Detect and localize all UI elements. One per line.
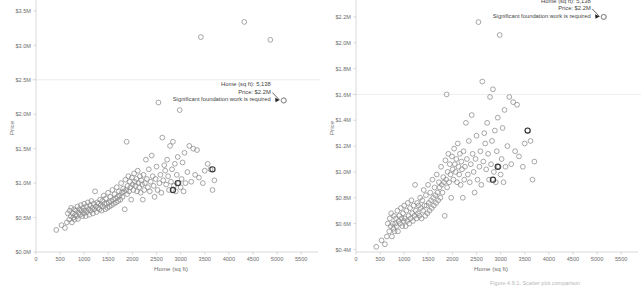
- data-point[interactable]: [162, 163, 167, 168]
- data-point[interactable]: [468, 162, 473, 167]
- data-point[interactable]: [430, 177, 435, 182]
- data-point[interactable]: [443, 158, 448, 163]
- data-point[interactable]: [151, 183, 156, 188]
- data-point[interactable]: [174, 172, 179, 177]
- data-point[interactable]: [503, 164, 508, 169]
- data-point[interactable]: [140, 197, 145, 202]
- scatter-plot-right-svg[interactable]: $0.4M$0.6M$0.8M$1.0M$1.2M$1.4M$1.6M$1.8M…: [320, 0, 641, 292]
- data-point[interactable]: [156, 100, 161, 105]
- data-point[interactable]: [507, 95, 512, 100]
- data-point[interactable]: [485, 120, 490, 125]
- data-point[interactable]: [491, 170, 496, 175]
- data-point[interactable]: [189, 179, 194, 184]
- scatter-panel-right[interactable]: $0.4M$0.6M$0.8M$1.0M$1.2M$1.4M$1.6M$1.8M…: [320, 0, 641, 292]
- data-point[interactable]: [448, 172, 453, 177]
- data-point[interactable]: [500, 126, 505, 131]
- data-point[interactable]: [158, 172, 163, 177]
- data-point[interactable]: [488, 95, 493, 100]
- data-point[interactable]: [532, 159, 537, 164]
- data-point[interactable]: [489, 162, 494, 167]
- data-point[interactable]: [459, 159, 464, 164]
- data-point[interactable]: [439, 164, 444, 169]
- annotated-data-point[interactable]: [281, 98, 286, 103]
- data-point[interactable]: [401, 211, 406, 216]
- data-point[interactable]: [159, 190, 164, 195]
- data-point[interactable]: [185, 170, 190, 175]
- data-point[interactable]: [374, 244, 379, 249]
- data-point[interactable]: [205, 161, 210, 166]
- data-point[interactable]: [476, 20, 481, 25]
- data-point[interactable]: [494, 149, 499, 154]
- data-point[interactable]: [462, 177, 467, 182]
- data-point[interactable]: [396, 229, 401, 234]
- data-point[interactable]: [460, 195, 465, 200]
- data-point[interactable]: [175, 155, 180, 160]
- data-point[interactable]: [198, 35, 203, 40]
- data-point[interactable]: [497, 33, 502, 38]
- data-point[interactable]: [129, 197, 134, 202]
- data-point[interactable]: [490, 139, 495, 144]
- annotated-data-point[interactable]: [601, 14, 606, 19]
- data-point[interactable]: [520, 164, 525, 169]
- data-point[interactable]: [450, 154, 455, 159]
- data-point[interactable]: [424, 193, 429, 198]
- data-point[interactable]: [197, 175, 202, 180]
- data-point[interactable]: [395, 208, 400, 213]
- data-point[interactable]: [164, 182, 169, 187]
- data-point[interactable]: [513, 149, 518, 154]
- data-point[interactable]: [464, 120, 469, 125]
- data-point[interactable]: [153, 177, 158, 182]
- data-point[interactable]: [463, 164, 468, 169]
- data-point[interactable]: [483, 141, 488, 146]
- data-point[interactable]: [480, 79, 485, 84]
- data-point[interactable]: [202, 168, 207, 173]
- data-point[interactable]: [449, 195, 454, 200]
- scatter-panel-left[interactable]: $0.0M$0.5M$1.0M$1.5M$2.0M$2.5M$3.0M$3.5M…: [0, 0, 320, 292]
- data-point[interactable]: [421, 188, 426, 193]
- data-point[interactable]: [409, 198, 414, 203]
- data-point[interactable]: [170, 167, 175, 172]
- data-point[interactable]: [470, 151, 475, 156]
- data-point[interactable]: [475, 177, 480, 182]
- data-point[interactable]: [498, 172, 503, 177]
- data-point[interactable]: [70, 220, 75, 225]
- data-point[interactable]: [442, 213, 447, 218]
- data-point[interactable]: [447, 180, 452, 185]
- data-point[interactable]: [160, 135, 165, 140]
- data-point[interactable]: [484, 167, 489, 172]
- data-point[interactable]: [522, 141, 527, 146]
- data-point[interactable]: [426, 182, 431, 187]
- data-point[interactable]: [390, 234, 395, 239]
- data-point[interactable]: [63, 225, 68, 230]
- data-point[interactable]: [441, 175, 446, 180]
- data-point[interactable]: [454, 157, 459, 162]
- data-point[interactable]: [460, 167, 465, 172]
- data-point[interactable]: [505, 144, 510, 149]
- data-point[interactable]: [495, 115, 500, 120]
- data-point[interactable]: [447, 162, 452, 167]
- data-point[interactable]: [154, 164, 159, 169]
- data-point[interactable]: [144, 157, 149, 162]
- data-point[interactable]: [93, 189, 98, 194]
- data-point[interactable]: [147, 189, 152, 194]
- data-point[interactable]: [469, 113, 474, 118]
- data-point[interactable]: [432, 185, 437, 190]
- data-point[interactable]: [515, 102, 520, 107]
- data-point[interactable]: [478, 149, 483, 154]
- data-point[interactable]: [509, 162, 514, 167]
- data-point[interactable]: [502, 108, 507, 113]
- data-point[interactable]: [179, 177, 184, 182]
- data-point-highlighted[interactable]: [525, 128, 530, 133]
- data-point[interactable]: [182, 150, 187, 155]
- data-point[interactable]: [122, 207, 127, 212]
- data-point[interactable]: [481, 159, 486, 164]
- data-point[interactable]: [181, 189, 186, 194]
- data-point[interactable]: [268, 37, 273, 42]
- data-point[interactable]: [440, 190, 445, 195]
- data-point[interactable]: [464, 157, 469, 162]
- data-point[interactable]: [242, 20, 247, 25]
- data-point[interactable]: [177, 108, 182, 113]
- data-point[interactable]: [387, 216, 392, 221]
- data-point[interactable]: [383, 242, 388, 247]
- data-point[interactable]: [149, 153, 154, 158]
